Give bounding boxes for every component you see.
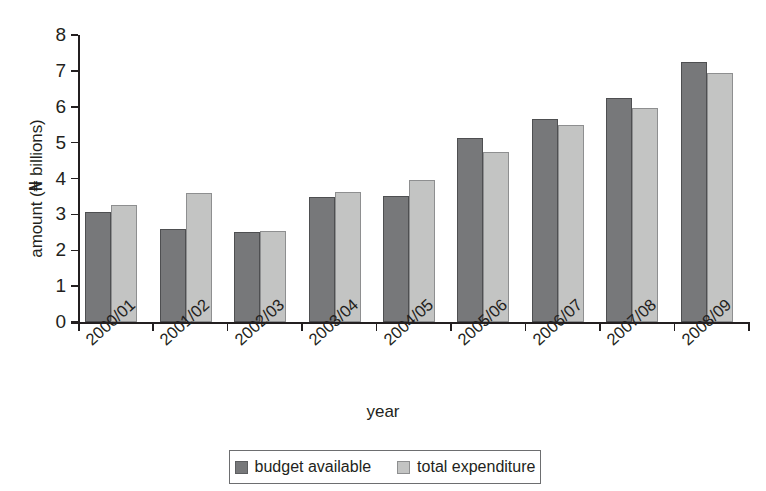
legend-swatch-total-expenditure	[397, 461, 410, 474]
bar-budget-available	[532, 119, 558, 322]
x-axis-tick	[376, 322, 378, 331]
y-axis-tick	[71, 142, 78, 144]
y-axis-tick	[71, 178, 78, 180]
x-axis-tick	[748, 322, 750, 331]
bar-budget-available	[681, 62, 707, 322]
bar-budget-available	[85, 212, 111, 322]
y-axis-tick-label: 7	[38, 61, 66, 80]
bar-budget-available	[383, 196, 409, 322]
y-axis-line	[78, 35, 80, 322]
y-axis-tick-label: 8	[38, 25, 66, 44]
x-axis-tick	[227, 322, 229, 331]
x-axis-tick	[450, 322, 452, 331]
bar-budget-available	[606, 98, 632, 322]
plot-area: 012345678 2000/012001/022002/032003/0420…	[78, 35, 748, 322]
legend-entry-budget-available: budget available	[235, 458, 372, 476]
y-axis-tick-label: 1	[38, 276, 66, 295]
y-axis-tick	[71, 34, 78, 36]
x-axis-tick	[152, 322, 154, 331]
y-axis-tick-label: 6	[38, 97, 66, 116]
x-axis-title: year	[0, 402, 766, 422]
y-axis-tick	[71, 106, 78, 108]
bar-budget-available	[160, 229, 186, 322]
bar-budget-available	[309, 197, 335, 322]
y-axis-tick	[71, 285, 78, 287]
bar-total-expenditure	[632, 108, 658, 322]
x-axis-tick	[674, 322, 676, 331]
bar-chart-figure: amount (₦ billions) 012345678 2000/01200…	[0, 0, 766, 491]
y-axis-tick-label: 5	[38, 133, 66, 152]
x-axis-tick	[599, 322, 601, 331]
legend-entry-total-expenditure: total expenditure	[397, 458, 535, 476]
y-axis-tick-label: 4	[38, 169, 66, 188]
bar-total-expenditure	[707, 73, 733, 322]
y-axis-tick	[71, 70, 78, 72]
legend-label-budget-available: budget available	[255, 458, 372, 476]
bar-total-expenditure	[558, 125, 584, 322]
bar-budget-available	[234, 232, 260, 322]
y-axis-tick-label: 2	[38, 240, 66, 259]
x-axis-tick	[78, 322, 80, 331]
x-axis-tick	[525, 322, 527, 331]
legend-label-total-expenditure: total expenditure	[417, 458, 535, 476]
y-axis-tick	[71, 321, 78, 323]
x-axis-tick	[301, 322, 303, 331]
y-axis-tick	[71, 214, 78, 216]
bar-budget-available	[457, 138, 483, 322]
chart-legend: budget available total expenditure	[229, 450, 541, 484]
y-axis-tick-label: 0	[38, 312, 66, 331]
y-axis-tick-label: 3	[38, 204, 66, 223]
y-axis-tick	[71, 250, 78, 252]
legend-swatch-budget-available	[235, 461, 248, 474]
